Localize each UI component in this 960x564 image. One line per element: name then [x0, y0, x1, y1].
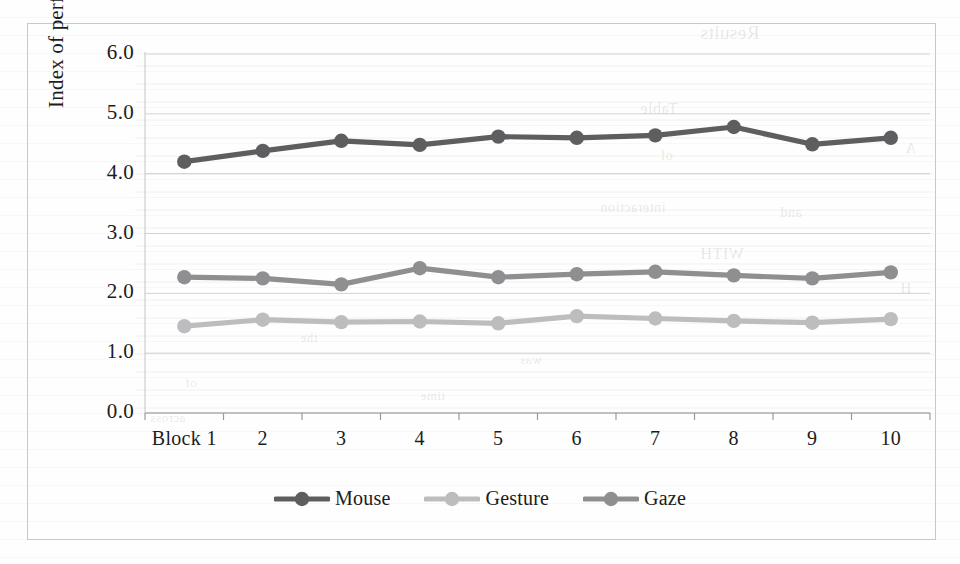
scan-line-noise-group [135, 66, 934, 408]
data-point-gaze [256, 271, 270, 285]
y-tick-label: 6.0 [72, 40, 134, 65]
data-point-gesture [727, 314, 741, 328]
data-point-mouse [570, 131, 584, 145]
y-axis-title: Index of performance [44, 0, 69, 130]
data-point-mouse [177, 155, 191, 169]
data-point-gesture [491, 316, 505, 330]
data-point-mouse [334, 134, 348, 148]
data-point-gaze [884, 265, 898, 279]
axis-group [145, 52, 930, 420]
gridline-group [145, 54, 930, 413]
data-point-gesture [805, 316, 819, 330]
data-point-gesture [648, 311, 662, 325]
data-point-gesture [177, 319, 191, 333]
y-tick-label: 0.0 [72, 399, 134, 424]
legend-marker-icon [424, 489, 480, 509]
data-point-gesture [256, 313, 270, 327]
data-point-gaze [177, 270, 191, 284]
y-tick-label: 2.0 [72, 279, 134, 304]
data-point-gesture [570, 309, 584, 323]
data-point-mouse [648, 128, 662, 142]
data-point-gaze [413, 261, 427, 275]
legend-marker-icon [583, 489, 639, 509]
data-series-group [177, 120, 898, 334]
data-point-gesture [413, 314, 427, 328]
data-point-gaze [570, 267, 584, 281]
legend-item-mouse[interactable]: Mouse [274, 487, 390, 510]
legend-label: Gaze [644, 487, 686, 510]
legend-item-gaze[interactable]: Gaze [583, 487, 686, 510]
legend-item-gesture[interactable]: Gesture [424, 487, 549, 510]
data-point-gaze [491, 270, 505, 284]
data-point-gaze [648, 265, 662, 279]
x-tick-label: 10 [821, 427, 960, 450]
legend-label: Mouse [335, 487, 390, 510]
data-point-mouse [256, 144, 270, 158]
data-point-mouse [884, 131, 898, 145]
data-point-gaze [727, 268, 741, 282]
scanned-chart-page: ResultsTableAofinteractionandWITHHthewas… [0, 0, 960, 564]
y-tick-label: 5.0 [72, 100, 134, 125]
legend-label: Gesture [485, 487, 549, 510]
y-tick-label: 4.0 [72, 160, 134, 185]
data-point-gesture [334, 315, 348, 329]
data-point-gaze [334, 277, 348, 291]
data-point-gaze [805, 271, 819, 285]
data-point-gesture [884, 312, 898, 326]
chart-legend: MouseGestureGaze [0, 487, 960, 510]
data-point-mouse [805, 137, 819, 151]
data-point-mouse [413, 138, 427, 152]
line-chart-plot [0, 0, 960, 564]
data-point-mouse [491, 129, 505, 143]
legend-marker-icon [274, 489, 330, 509]
data-point-mouse [727, 120, 741, 134]
y-tick-label: 1.0 [72, 339, 134, 364]
y-tick-label: 3.0 [72, 220, 134, 245]
